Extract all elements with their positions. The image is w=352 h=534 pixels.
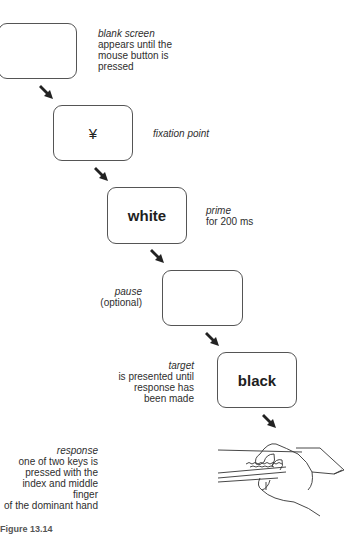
arrow-down-right-icon — [203, 330, 221, 348]
figure-caption: Figure 13.14 — [0, 524, 53, 534]
blank-screen-desc: appears until the mouse button is presse… — [98, 39, 172, 72]
blank-screen-label: blank screen appears until the mouse but… — [98, 28, 172, 72]
target-box: black — [217, 352, 297, 408]
pause-label: pause (optional) — [100, 286, 142, 308]
prime-label: prime for 200 ms — [206, 205, 253, 227]
arrow-down-right-icon — [92, 165, 110, 183]
response-label: response one of two keys is pressed with… — [0, 445, 98, 511]
blank-screen-box — [0, 23, 77, 79]
arrow-down-right-icon — [148, 247, 166, 265]
target-title: target — [118, 360, 194, 371]
target-label: target is presented until response has b… — [118, 360, 194, 404]
target-desc: is presented until response has been mad… — [118, 371, 194, 404]
pause-desc: (optional) — [100, 297, 142, 308]
prime-desc: for 200 ms — [206, 216, 253, 227]
pause-title: pause — [100, 286, 142, 297]
hand-on-keyboard-icon — [216, 440, 352, 520]
target-word: black — [238, 372, 276, 389]
fixation-point-title: fixation point — [153, 128, 209, 139]
arrow-down-right-icon — [37, 83, 55, 101]
response-title: response — [0, 445, 98, 456]
blank-screen-title: blank screen — [98, 28, 172, 39]
pause-box — [162, 270, 243, 326]
response-desc: one of two keys is pressed with the inde… — [0, 456, 98, 511]
prime-title: prime — [206, 205, 253, 216]
fixation-point-box: ¥ — [53, 105, 133, 161]
fixation-glyph: ¥ — [89, 125, 97, 142]
fixation-point-label: fixation point — [153, 128, 209, 139]
arrow-down-right-icon — [260, 412, 278, 430]
prime-box: white — [107, 187, 187, 244]
prime-word: white — [128, 207, 166, 224]
